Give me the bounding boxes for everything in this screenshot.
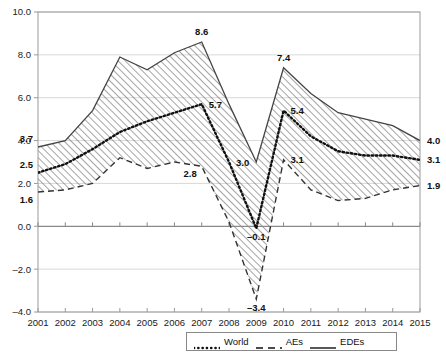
legend-label: World [224,336,249,347]
value-label: 2.5 [20,159,34,170]
value-label: 5.7 [209,99,222,110]
x-tick-label: 2003 [82,317,103,328]
x-tick-label: 2013 [355,317,376,328]
value-label: 8.6 [195,26,208,37]
legend-label: EDEs [340,336,364,347]
x-tick-label: 2009 [246,317,267,328]
x-tick-label: 2007 [191,317,212,328]
y-tick-label: –4.0 [13,306,32,317]
x-tick-label: 2008 [218,317,239,328]
value-label: 1.6 [20,194,33,205]
x-tick-label: 2010 [273,317,294,328]
y-tick-label: –2.0 [13,264,32,275]
legend-label: AEs [286,336,303,347]
x-tick-label: 2002 [55,317,76,328]
value-label: 4.0 [427,135,440,146]
value-label: –3.4 [247,302,266,313]
x-tick-label: 2006 [164,317,185,328]
value-label: –0.1 [247,231,266,242]
x-tick-label: 2001 [27,317,48,328]
x-tick-label: 2005 [137,317,158,328]
x-tick-label: 2015 [409,317,430,328]
y-axis-ticks [34,12,38,312]
legend-item-aes[interactable]: AEs [256,336,303,347]
x-tick-label: 2014 [382,317,403,328]
y-tick-label: 0.0 [18,221,31,232]
value-label: 3.0 [236,157,249,168]
y-tick-label: 2.0 [18,178,31,189]
chart-canvas: –4.0–2.00.02.04.06.08.010.0 200120022003… [0,0,446,357]
value-label: 3.7 [20,133,33,144]
y-tick-label: 10.0 [13,6,32,17]
value-label: 3.1 [427,154,441,165]
x-axis-ticks [38,222,420,312]
value-label: 7.4 [277,52,291,63]
growth-chart: –4.0–2.00.02.04.06.08.010.0 200120022003… [0,0,446,357]
legend-item-edes[interactable]: EDEs [310,336,364,347]
value-label: 5.4 [291,105,305,116]
x-tick-label: 2004 [109,317,130,328]
legend-swatch-solid [310,338,336,346]
legend-swatch-dotted [194,338,220,346]
x-tick-label: 2012 [328,317,349,328]
y-tick-label: 8.0 [18,49,31,60]
value-label: 2.8 [183,168,196,179]
value-label: 3.1 [291,154,305,165]
ede-ae-band [38,42,420,299]
legend-swatch-dashed [256,338,282,346]
y-tick-label: 6.0 [18,92,31,103]
legend-item-world[interactable]: World [194,336,249,347]
value-label: 1.9 [427,180,440,191]
x-tick-label: 2011 [301,317,321,328]
chart-legend: WorldAEsEDEs [186,332,397,351]
x-axis-tick-labels: 2001200220032004200520062007200820092010… [27,317,430,328]
band-area [38,42,420,299]
